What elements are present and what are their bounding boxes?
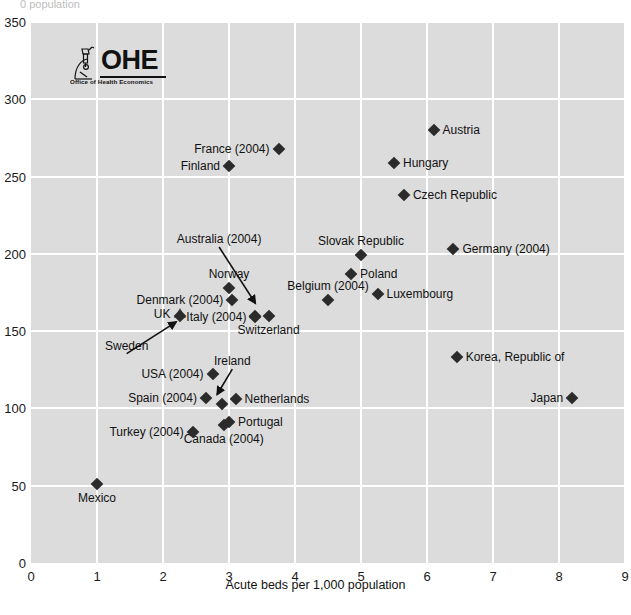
scatter-chart: 0 population OHE Offic (0, 0, 631, 615)
x-axis-title: Acute beds per 1,000 population (0, 578, 631, 592)
x-axis-tick-labels: 0123456789 (0, 0, 631, 615)
